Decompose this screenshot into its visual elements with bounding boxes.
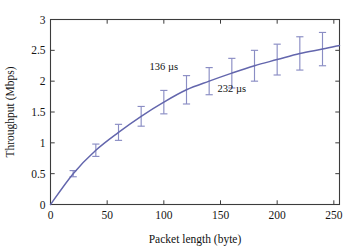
x-tick-label: 100 [155,209,173,221]
y-tick-label: 0.5 [31,168,46,180]
throughput-vs-packet-length-chart: 050100150200250 00.511.522.53 136 µs232 … [0,0,362,248]
x-tick-label: 0 [48,209,54,221]
annotation-label: 232 µs [218,83,247,94]
x-axis-label: Packet length (byte) [149,233,242,246]
annotation-label: 136 µs [150,61,179,72]
y-tick-label: 1 [40,137,46,149]
x-tick-label: 200 [269,209,287,221]
x-tick-label: 50 [101,209,113,221]
y-tick-label: 1.5 [31,106,46,118]
y-tick-label: 0 [40,199,46,211]
figure-background [0,0,362,248]
y-tick-label: 2.5 [31,44,46,56]
y-axis-label: Throughput (Mbps) [4,66,17,157]
x-tick-label: 250 [325,209,343,221]
y-tick-label: 3 [40,14,46,26]
figure-container: 050100150200250 00.511.522.53 136 µs232 … [0,0,362,248]
y-tick-label: 2 [40,75,46,87]
x-tick-label: 150 [212,209,230,221]
